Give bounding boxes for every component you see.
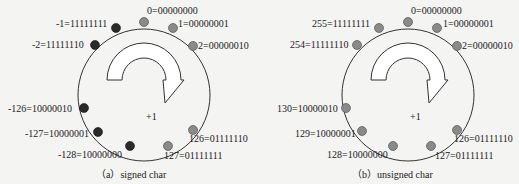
label-129: 129=10000001 xyxy=(295,128,356,139)
point-2 xyxy=(189,42,198,51)
point-neg2 xyxy=(91,41,100,50)
label-1: 1=00000001 xyxy=(443,18,494,29)
point-neg127 xyxy=(94,128,103,137)
center-label: +1 xyxy=(146,111,157,122)
point-130 xyxy=(342,104,351,113)
label-neg1: -1=11111111 xyxy=(56,18,107,29)
increment-arrow-icon xyxy=(107,43,184,103)
label-126: 126=01111110 xyxy=(454,133,513,144)
label-0: 0=00000000 xyxy=(411,5,462,16)
label-2: 2=00000010 xyxy=(198,40,249,51)
point-2 xyxy=(453,42,462,51)
increment-arrow-icon xyxy=(371,43,448,103)
caption: （b）unsigned char xyxy=(352,169,433,180)
label-neg126: -126=10000010 xyxy=(8,103,72,114)
label-1: 1=00000001 xyxy=(178,18,229,29)
label-254: 254=11111110 xyxy=(290,39,348,50)
figure: +1 0=00000000 1=00000001 2=00000010 126=… xyxy=(0,0,519,184)
label-2: 2=00000010 xyxy=(462,40,513,51)
label-127: 127=01111111 xyxy=(164,150,222,161)
diagram-signed-char: +1 0=00000000 1=00000001 2=00000010 126=… xyxy=(8,5,249,180)
point-128 xyxy=(389,142,398,151)
point-129 xyxy=(358,127,367,136)
label-128: 128=10000000 xyxy=(327,149,388,160)
label-130: 130=10000010 xyxy=(277,103,338,114)
label-neg2: -2=11111110 xyxy=(32,39,84,50)
label-0: 0=00000000 xyxy=(147,5,198,16)
point-0 xyxy=(404,18,413,27)
label-127: 127=01111111 xyxy=(435,150,493,161)
diagram-unsigned-char: +1 0=00000000 1=00000001 2=00000010 126=… xyxy=(277,5,513,180)
point-neg1 xyxy=(112,24,121,33)
point-254 xyxy=(353,41,362,50)
label-neg127: -127=10000001 xyxy=(25,128,89,139)
point-1 xyxy=(169,24,178,33)
label-126: 126=01111110 xyxy=(189,133,248,144)
label-neg128: -128=10000000 xyxy=(58,149,122,160)
caption: （a）signed char xyxy=(96,169,167,180)
point-neg126 xyxy=(80,104,89,113)
point-1 xyxy=(433,24,442,33)
label-255: 255=11111111 xyxy=(312,18,370,29)
center-label: +1 xyxy=(410,111,421,122)
point-neg128 xyxy=(126,142,135,151)
point-0 xyxy=(140,18,149,27)
point-255 xyxy=(375,24,384,33)
